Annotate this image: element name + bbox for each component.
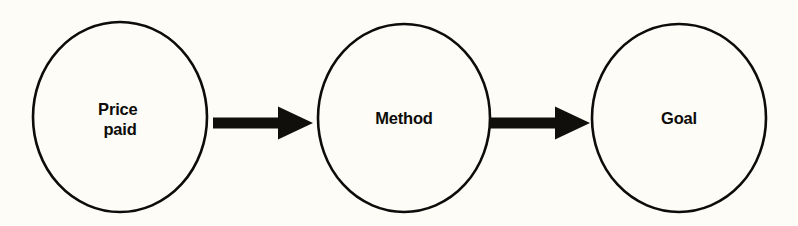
node-label-goal-line-1: Goal: [661, 109, 697, 127]
node-label-price-paid-line-1: Price: [98, 100, 137, 118]
node-label-goal: Goal: [661, 109, 697, 127]
node-label-price-paid-line-2: paid: [103, 120, 136, 138]
node-label-method: Method: [375, 109, 432, 127]
node-method[interactable]: Method: [318, 24, 490, 212]
right-arrow-icon[interactable]: [490, 107, 590, 140]
arrow-method-to-goal[interactable]: [490, 107, 590, 140]
node-goal[interactable]: Goal: [592, 24, 766, 212]
node-label-method-line-1: Method: [375, 109, 432, 127]
arrow-price-paid-to-method[interactable]: [213, 107, 313, 140]
right-arrow-icon[interactable]: [213, 107, 313, 140]
diagram-canvas: Price paid Method Goal: [0, 0, 798, 226]
flow-diagram: Price paid Method Goal: [0, 0, 798, 226]
node-price-paid[interactable]: Price paid: [33, 22, 207, 212]
